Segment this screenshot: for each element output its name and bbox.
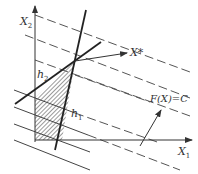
objective-gradient-arrow bbox=[140, 110, 161, 146]
x1-axis-label: X1 bbox=[177, 145, 190, 160]
lp-diagram: X2 X1 h2 h1 X* F(X)=C bbox=[0, 0, 198, 174]
x2-axis-label: X2 bbox=[19, 15, 32, 30]
objective-label: F(X)=C bbox=[149, 93, 188, 104]
constraint-h1-label: h1 bbox=[71, 107, 83, 122]
constraint-h2-label: h2 bbox=[37, 68, 49, 83]
optimum-label: X* bbox=[129, 46, 144, 59]
